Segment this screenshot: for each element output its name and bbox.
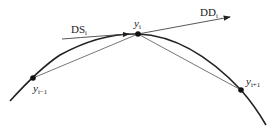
label-ds: DSi — [71, 24, 87, 37]
label-y-cur: yi — [134, 18, 141, 31]
label-dd: DDi — [200, 7, 218, 20]
label-y-prev: yi−1 — [33, 83, 47, 96]
point-y-next — [238, 87, 244, 93]
secant-right — [138, 34, 241, 90]
point-y-prev — [30, 75, 36, 81]
point-y-cur — [135, 31, 141, 37]
curve — [10, 34, 266, 125]
secant-left — [33, 34, 138, 78]
label-y-next: yi+1 — [246, 76, 260, 89]
